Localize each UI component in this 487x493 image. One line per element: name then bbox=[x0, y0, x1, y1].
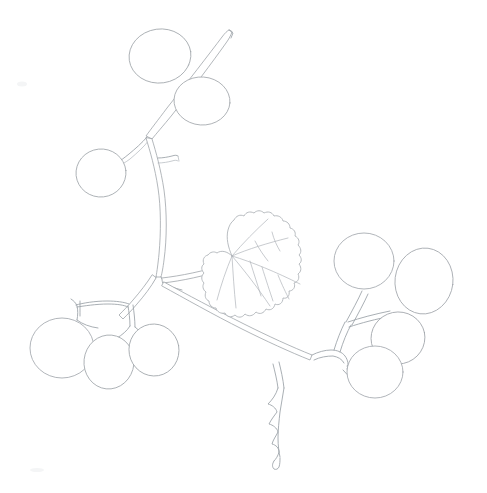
pedicel-top-bar-under bbox=[77, 304, 128, 307]
right-berry-cluster bbox=[312, 233, 457, 398]
cluster-node-outline bbox=[312, 350, 348, 369]
botanical-sketch-drawing: Berry Branch Pencil Sketch bbox=[0, 0, 487, 493]
upper-berries bbox=[74, 25, 232, 200]
lower-left-berry-cluster bbox=[30, 299, 183, 391]
stem-stub-branch bbox=[158, 155, 178, 158]
tendril-zigzag-left bbox=[268, 388, 279, 461]
smudge-mark bbox=[30, 468, 44, 472]
sketch-canvas: Berry Branch Pencil Sketch bbox=[0, 0, 487, 493]
berry-upper-left bbox=[74, 147, 129, 200]
tendril-stem-left bbox=[273, 364, 278, 388]
stem-stub-branch-under bbox=[158, 160, 178, 163]
paper-smudges bbox=[17, 82, 44, 473]
serrated-leaf bbox=[202, 211, 302, 317]
berry-right-b bbox=[391, 245, 457, 318]
hanging-tendril bbox=[268, 362, 284, 469]
pedicel-right-stem-b bbox=[133, 305, 135, 327]
berry-left-c bbox=[125, 320, 183, 380]
branch-to-left-cluster bbox=[119, 275, 156, 319]
pedicel-right-upper bbox=[334, 322, 345, 350]
main-stem-lower-segment bbox=[146, 138, 166, 277]
pedicel-to-berry-mid bbox=[117, 326, 130, 338]
tendril-curl-tip bbox=[273, 458, 281, 469]
tendril-zigzag-right bbox=[278, 388, 284, 457]
berry-right-a bbox=[334, 233, 394, 289]
berry-top-left bbox=[126, 25, 195, 87]
cluster-node-inner bbox=[314, 356, 344, 363]
tendril-stem-right bbox=[279, 362, 284, 388]
pedicel-left-hook bbox=[71, 299, 78, 320]
berry-right-d bbox=[347, 346, 403, 398]
leaf-outline bbox=[202, 211, 302, 317]
stem-stub-tip bbox=[178, 156, 179, 161]
pedicel-to-berry-right-a bbox=[346, 291, 362, 322]
berry-top-right bbox=[172, 75, 231, 127]
smudge-mark bbox=[17, 82, 27, 87]
